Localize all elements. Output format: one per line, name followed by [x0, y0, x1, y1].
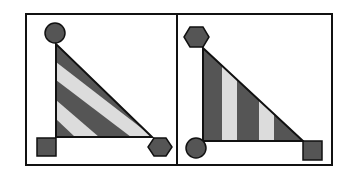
- hexagon-vertex: [148, 138, 172, 156]
- square-vertex: [37, 138, 56, 156]
- circle-vertex: [186, 138, 206, 158]
- square-vertex: [303, 141, 322, 160]
- circle-vertex: [45, 23, 65, 43]
- stripe-light: [222, 40, 237, 150]
- figure: [0, 0, 342, 187]
- stripe-light: [259, 40, 274, 150]
- left-panel: [37, 23, 172, 156]
- hexagon-vertex: [184, 27, 209, 47]
- right-panel: [184, 27, 322, 160]
